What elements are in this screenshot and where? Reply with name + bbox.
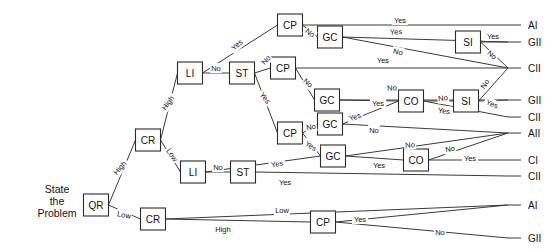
tree-edge [346,156,404,160]
outcome-label: AI [528,20,537,31]
outcome-label: CI [528,155,538,166]
edge-label: No [405,140,415,150]
edge-label: Yes [354,215,366,224]
tree-node-st[interactable]: ST [231,161,256,183]
node-label: SI [463,37,472,48]
root-label-line: State [45,183,70,195]
edge-label: Yes [464,154,476,163]
edge-label: Yes [390,27,403,37]
tree-node-cp[interactable]: CP [311,211,336,233]
node-label: QR [89,200,104,211]
tree-node-cr[interactable]: CR [141,208,166,230]
node-label: CO [409,155,424,166]
tree-node-si[interactable]: SI [454,90,479,112]
outcome-label: CII [528,63,541,74]
node-label: GC [323,119,338,130]
node-label: LI [189,167,197,178]
tree-node-li[interactable]: LI [178,62,203,84]
tree-node-qr[interactable]: QR [84,194,109,216]
node-label: GC [323,32,338,43]
tree-node-li[interactable]: LI [181,161,206,183]
edge-label: No [211,64,221,73]
edge-label: Yes [372,99,384,108]
outcome-label: AI [528,200,537,211]
edge-label: No [392,47,403,58]
tree-node-cr[interactable]: CR [136,129,161,151]
outcome-label: CII [528,171,541,182]
root-label-line: the [50,195,65,207]
edge-label-layer: HighLowHighLowYesNoNoYesYesNoYesNoYesNoN… [110,15,502,237]
edge-label: Low [164,147,180,164]
node-label: GC [326,151,341,162]
node-label: CP [283,128,297,139]
edge-label: Yes [279,178,291,187]
edge-label: High [215,225,230,234]
tree-node-cp[interactable]: CP [271,57,296,79]
edge-label: No [213,163,223,172]
tree-node-co[interactable]: CO [404,149,429,171]
edge-label: No [301,76,314,89]
root-label-layer: StatetheProblem [37,183,76,219]
tree-node-gc[interactable]: GC [318,26,343,48]
edge-label: No [369,126,379,135]
edge-label: Yes [487,32,499,41]
node-label: CO [404,96,419,107]
edge-label: Yes [373,161,385,170]
root-label-line: Problem [37,207,76,219]
edge-label: No [387,83,397,92]
node-layer: QRCRCRLILISTSTCPCPCPCPGCGCGCGCCOCOSISI [84,14,481,233]
node-label: CP [283,20,297,31]
edge-label: No [485,48,498,61]
outcome-label: CII [528,112,541,123]
tree-edge [343,124,509,133]
tree-node-cp[interactable]: CP [278,122,303,144]
tree-edge [166,219,311,222]
node-label: LI [186,68,194,79]
outcome-label: GII [528,37,541,48]
root-label: StatetheProblem [37,183,76,219]
tree-node-gc[interactable]: GC [321,145,346,167]
edge-label: No [445,144,456,154]
outcome-label: AII [528,128,540,139]
tree-node-st[interactable]: ST [230,62,255,84]
outcome-label: GII [528,233,541,244]
decision-tree-diagram: QRCRCRLILISTSTCPCPCPCPGCGCGCGCCOCOSISI H… [0,0,558,250]
tree-edge [255,68,271,73]
tree-edge [336,222,509,238]
tree-node-si[interactable]: SI [456,31,481,53]
tree-node-cp[interactable]: CP [278,14,303,36]
edge-label: Yes [437,106,450,116]
edge-label: Low [275,206,289,215]
tree-node-gc[interactable]: GC [318,113,343,135]
edge-label: No [306,122,317,132]
edge-label: No [435,228,445,237]
tree-node-co[interactable]: CO [399,90,424,112]
node-label: GC [320,95,335,106]
edge-label: No [438,93,449,103]
edge-label: Low [116,209,132,221]
edge-label: Yes [377,56,389,65]
node-label: CP [316,217,330,228]
tree-edge [166,205,509,219]
outcome-layer: AIGIICIIGIICIIAIICICIIAIGII [528,20,541,244]
tree-node-gc[interactable]: GC [315,89,340,111]
tree-edge [256,172,509,176]
edge-label: Yes [394,16,406,25]
node-label: CR [146,214,160,225]
node-label: ST [237,167,250,178]
node-label: ST [236,68,249,79]
tick-layer [508,25,521,238]
outcome-label: GII [528,95,541,106]
edge-label: No [303,27,316,40]
node-label: SI [461,96,470,107]
node-label: CR [141,135,155,146]
node-label: CP [276,63,290,74]
